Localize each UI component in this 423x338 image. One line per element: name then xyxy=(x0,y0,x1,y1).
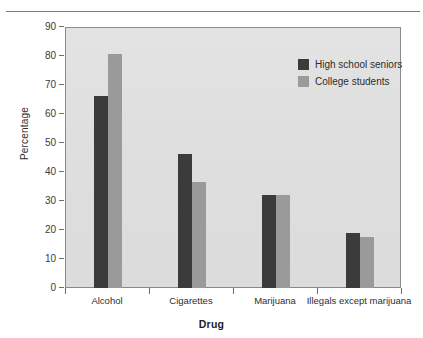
y-tick-90: 90 xyxy=(0,21,64,33)
x-tick-mark xyxy=(65,288,66,294)
y-tick-label: 70 xyxy=(45,79,64,91)
y-tick-30: 30 xyxy=(0,195,64,207)
y-tick-mark xyxy=(59,142,64,143)
y-tick-label: 10 xyxy=(45,253,64,265)
y-tick-label: 30 xyxy=(45,195,64,207)
y-axis-title: Percentage xyxy=(19,89,30,179)
y-tick-mark xyxy=(59,171,64,172)
y-tick-mark xyxy=(59,84,64,85)
y-tick-mark xyxy=(59,26,64,27)
bar xyxy=(192,182,206,288)
y-tick-mark xyxy=(59,200,64,201)
y-tick-20: 20 xyxy=(0,224,64,236)
y-tick-0: 0 xyxy=(0,282,64,294)
x-tick-mark xyxy=(401,288,402,294)
x-tick-mark xyxy=(317,288,318,294)
header-rule xyxy=(6,11,420,12)
y-tick-80: 80 xyxy=(0,50,64,62)
legend-swatch-college-students xyxy=(298,76,309,87)
y-tick-60: 60 xyxy=(0,108,64,120)
legend-swatch-high-school-seniors xyxy=(298,59,309,70)
legend-label-high-school-seniors: High school seniors xyxy=(315,59,402,71)
y-tick-label: 80 xyxy=(45,50,64,62)
bar xyxy=(94,96,108,288)
y-tick-label: 50 xyxy=(45,137,64,149)
bar xyxy=(262,195,276,288)
legend-label-college-students: College students xyxy=(315,76,390,88)
y-tick-label: 20 xyxy=(45,224,64,236)
plot-area: High school seniors College students xyxy=(65,27,401,288)
y-tick-mark xyxy=(59,113,64,114)
y-tick-mark xyxy=(59,287,64,288)
bar xyxy=(360,237,374,288)
y-tick-50: 50 xyxy=(0,137,64,149)
bar xyxy=(276,195,290,288)
y-tick-10: 10 xyxy=(0,253,64,265)
x-tick-mark xyxy=(149,288,150,294)
x-category-label: Illegals except marijuana xyxy=(304,295,414,307)
y-tick-70: 70 xyxy=(0,79,64,91)
bar-chart-figure: Percentage 0102030405060708090 High scho… xyxy=(0,0,423,338)
y-tick-label: 0 xyxy=(50,282,64,294)
bar xyxy=(108,54,122,288)
y-tick-mark xyxy=(59,258,64,259)
y-tick-mark xyxy=(59,229,64,230)
x-axis-title: Drug xyxy=(0,318,423,330)
legend-item-college-students: College students xyxy=(298,74,402,89)
y-tick-40: 40 xyxy=(0,166,64,178)
bar xyxy=(178,154,192,288)
bar xyxy=(346,233,360,288)
y-tick-label: 40 xyxy=(45,166,64,178)
y-tick-mark xyxy=(59,55,64,56)
x-tick-mark xyxy=(233,288,234,294)
legend: High school seniors College students xyxy=(298,57,402,91)
y-tick-label: 60 xyxy=(45,108,64,120)
legend-item-high-school-seniors: High school seniors xyxy=(298,57,402,72)
y-tick-label: 90 xyxy=(45,21,64,33)
